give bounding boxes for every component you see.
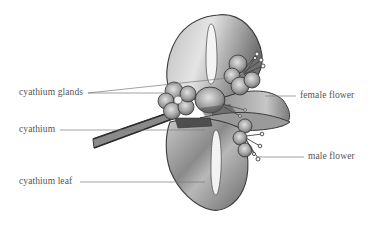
cyathium-glands bbox=[158, 82, 196, 120]
stem bbox=[93, 113, 175, 148]
label-cyathium: cyathium bbox=[19, 125, 55, 135]
cyathium-diagram: cyathium glands cyathium cyathium leaf f… bbox=[0, 0, 375, 226]
label-cyathium-glands: cyathium glands bbox=[19, 88, 83, 98]
label-female-flower: female flower bbox=[300, 91, 354, 101]
cyathium-illustration bbox=[0, 0, 375, 226]
cyathium-leaf-bottom bbox=[166, 118, 248, 210]
label-male-flower: male flower bbox=[308, 152, 355, 162]
label-cyathium-leaf: cyathium leaf bbox=[19, 177, 72, 187]
